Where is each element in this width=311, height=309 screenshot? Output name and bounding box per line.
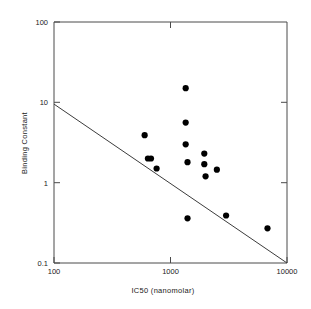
data-point bbox=[202, 173, 208, 179]
scatter-plot-figure: 100 10 1 0.1 100 1000 10000 IC50 (nanomo… bbox=[0, 0, 311, 309]
data-point bbox=[148, 155, 154, 161]
data-point bbox=[223, 212, 229, 218]
x-tick-label-10000: 10000 bbox=[277, 267, 298, 276]
y-tick-label-10: 10 bbox=[40, 98, 48, 107]
x-axis-title: IC50 (nanomolar) bbox=[131, 286, 194, 295]
plot-frame bbox=[54, 22, 287, 263]
x-axis-ticks bbox=[54, 22, 287, 263]
y-tick-label-100: 100 bbox=[35, 18, 48, 27]
plot-canvas: 100 10 1 0.1 100 1000 10000 IC50 (nanomo… bbox=[0, 0, 311, 309]
data-point bbox=[183, 119, 189, 125]
x-tick-label-100: 100 bbox=[48, 267, 61, 276]
y-tick-label-0.1: 0.1 bbox=[38, 259, 48, 268]
regression-line bbox=[54, 104, 287, 263]
data-point bbox=[214, 167, 220, 173]
data-point bbox=[184, 215, 190, 221]
x-tick-label-1000: 1000 bbox=[162, 267, 179, 276]
data-point bbox=[201, 161, 207, 167]
data-point bbox=[142, 132, 148, 138]
y-axis-title: Binding Constant bbox=[20, 111, 29, 174]
data-point-group bbox=[142, 85, 271, 231]
data-point bbox=[183, 141, 189, 147]
data-point bbox=[154, 165, 160, 171]
data-point bbox=[184, 159, 190, 165]
data-point bbox=[183, 85, 189, 91]
data-point bbox=[264, 225, 270, 231]
data-point bbox=[201, 151, 207, 157]
y-axis-ticks bbox=[54, 22, 287, 263]
y-tick-label-1: 1 bbox=[44, 179, 48, 188]
